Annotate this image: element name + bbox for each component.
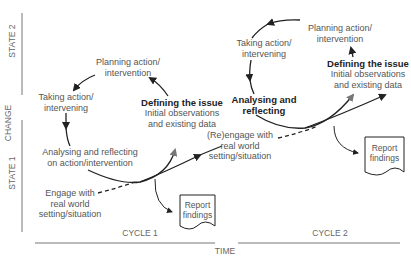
cycle2-defining-sub: Initial observations and existing data [318,69,411,90]
arrow-to-reengage [140,155,200,182]
cycle2-taking-label: Taking action/ intervening [228,38,300,59]
arrow-to-report-1 [155,179,172,212]
cycle1-taking-label: Taking action/ intervening [30,92,102,113]
cycle2-defining-title: Defining the issue [318,58,411,69]
cycle2-report-label: Report findings [365,143,404,163]
state1-label: STATE 1 [7,153,17,193]
cycle1-analysing-label: Analysing and reflecting on action/inter… [35,147,145,168]
arrow-defining-to-planning-2 [351,48,353,57]
cycle2-analysing-label: Analysing and reflecting [228,94,300,116]
cycle1-planning-label: Planning action/ intervention [83,57,173,78]
arrow-taking-to-analysing-2 [250,60,251,80]
cycle1-defining-sub: Initial observations and existing data [132,108,232,129]
cycle1-label: CYCLE 1 [110,228,170,238]
cycle1-report-label: Report findings [180,200,215,220]
change-label: CHANGE [3,103,13,143]
arrow-to-next-cycle [305,95,385,128]
arrow-to-report-2 [334,126,358,153]
arrow-defining-to-planning-1 [150,78,168,96]
cycle1-engage-label: Engage with real world setting/situation [35,188,105,220]
cycle2-reengage-label: (Re)engage with real world setting/situa… [200,130,280,162]
state2-label: STATE 2 [7,21,17,61]
cycle2-label: CYCLE 2 [300,228,360,238]
cycle2-planning-label: Planning action/ intervention [295,23,385,44]
cycle1-defining-title: Defining the issue [132,97,232,108]
time-label: TIME [200,246,250,256]
